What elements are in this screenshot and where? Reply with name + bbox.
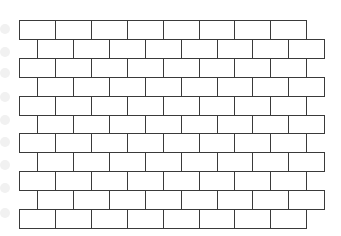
brick bbox=[199, 133, 235, 153]
ghost-mark bbox=[0, 24, 10, 34]
brick bbox=[55, 58, 92, 78]
brick bbox=[91, 171, 128, 191]
brick bbox=[55, 171, 92, 191]
brick bbox=[145, 152, 182, 172]
brick bbox=[145, 190, 182, 210]
brick bbox=[252, 77, 289, 97]
ghost-mark bbox=[0, 92, 10, 102]
brick bbox=[73, 39, 110, 59]
brick bbox=[234, 96, 271, 116]
brick bbox=[181, 190, 218, 210]
brick bbox=[163, 133, 200, 153]
brick bbox=[199, 20, 235, 40]
brick bbox=[127, 20, 164, 40]
brick bbox=[145, 39, 182, 59]
brick bbox=[252, 152, 289, 172]
brick bbox=[19, 209, 56, 229]
brick bbox=[37, 152, 74, 172]
brick bbox=[19, 133, 56, 153]
brick bbox=[73, 77, 110, 97]
brick bbox=[270, 133, 307, 153]
brick bbox=[270, 96, 307, 116]
brick bbox=[234, 58, 271, 78]
brick bbox=[109, 190, 146, 210]
brick bbox=[91, 20, 128, 40]
brick bbox=[127, 133, 164, 153]
brick bbox=[163, 96, 200, 116]
ghost-mark bbox=[0, 115, 10, 125]
brick bbox=[234, 133, 271, 153]
brick bbox=[199, 209, 235, 229]
brick bbox=[163, 171, 200, 191]
brick bbox=[37, 39, 74, 59]
brick bbox=[234, 209, 271, 229]
brick bbox=[73, 152, 110, 172]
brick bbox=[55, 133, 92, 153]
brick bbox=[55, 96, 92, 116]
brick bbox=[91, 58, 128, 78]
brick bbox=[37, 115, 74, 134]
brick bbox=[163, 209, 200, 229]
brick bbox=[163, 58, 200, 78]
brick bbox=[127, 209, 164, 229]
brick bbox=[163, 20, 200, 40]
brick bbox=[127, 171, 164, 191]
brick bbox=[127, 58, 164, 78]
brick bbox=[109, 77, 146, 97]
ghost-mark bbox=[0, 137, 10, 147]
brick bbox=[199, 96, 235, 116]
brick bbox=[37, 190, 74, 210]
brick bbox=[73, 115, 110, 134]
brick bbox=[181, 39, 218, 59]
brick bbox=[181, 115, 218, 134]
brick bbox=[252, 115, 289, 134]
brick bbox=[288, 77, 325, 97]
brick bbox=[37, 77, 74, 97]
brick bbox=[19, 20, 56, 40]
brick-wall-figure bbox=[0, 0, 341, 236]
brick bbox=[270, 20, 307, 40]
brick bbox=[109, 39, 146, 59]
brick bbox=[55, 20, 92, 40]
brick bbox=[55, 209, 92, 229]
brick bbox=[252, 190, 289, 210]
brick bbox=[217, 152, 253, 172]
brick bbox=[270, 58, 307, 78]
brick bbox=[217, 115, 253, 134]
brick bbox=[145, 77, 182, 97]
brick bbox=[199, 171, 235, 191]
brick bbox=[288, 152, 325, 172]
brick bbox=[217, 190, 253, 210]
brick bbox=[270, 171, 307, 191]
brick bbox=[19, 96, 56, 116]
ghost-mark bbox=[0, 47, 10, 57]
brick bbox=[73, 190, 110, 210]
brick bbox=[288, 190, 325, 210]
brick bbox=[19, 58, 56, 78]
brick bbox=[288, 115, 325, 134]
brick bbox=[181, 152, 218, 172]
ghost-mark bbox=[0, 208, 10, 218]
brick bbox=[217, 39, 253, 59]
brick bbox=[19, 171, 56, 191]
brick bbox=[127, 96, 164, 116]
brick bbox=[217, 77, 253, 97]
ghost-mark bbox=[0, 160, 10, 170]
brick bbox=[234, 171, 271, 191]
brick bbox=[145, 115, 182, 134]
brick bbox=[91, 133, 128, 153]
brick bbox=[109, 152, 146, 172]
brick bbox=[270, 209, 307, 229]
brick bbox=[109, 115, 146, 134]
brick bbox=[91, 96, 128, 116]
brick bbox=[288, 39, 325, 59]
brick bbox=[252, 39, 289, 59]
brick bbox=[234, 20, 271, 40]
brick bbox=[199, 58, 235, 78]
brick bbox=[181, 77, 218, 97]
ghost-mark bbox=[0, 183, 10, 193]
brick bbox=[91, 209, 128, 229]
ghost-mark bbox=[0, 68, 10, 78]
